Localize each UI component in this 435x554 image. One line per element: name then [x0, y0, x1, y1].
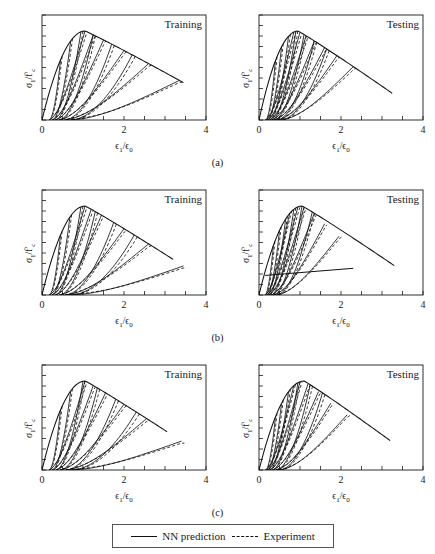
- experiment-loop: [61, 389, 127, 469]
- experiment-loop: [273, 382, 321, 470]
- curve-group: [42, 381, 184, 470]
- experiment-loop: [269, 208, 306, 294]
- experiment-loop: [275, 36, 327, 120]
- x-tick-label: 2: [331, 299, 351, 310]
- experiment-loop: [73, 414, 185, 470]
- x-axis-label: ϵ1/ϵ0: [259, 141, 423, 154]
- nn-prediction-loop: [267, 32, 300, 120]
- x-tick-label: 0: [249, 124, 269, 135]
- x-axis-label: ϵ1/ϵ0: [259, 491, 423, 504]
- x-axis-label: ϵ1/ϵ0: [259, 316, 423, 329]
- y-axis-label: σ1/f'c: [24, 418, 37, 437]
- x-tick-label: 2: [331, 124, 351, 135]
- row-label-b: (b): [0, 332, 435, 343]
- legend: NN prediction Experiment: [112, 524, 334, 548]
- curve-group: [259, 381, 390, 470]
- nn-prediction-loop: [56, 381, 106, 469]
- experiment-loop: [50, 382, 87, 469]
- nn-prediction-loop: [270, 36, 307, 120]
- x-tick-label: 2: [114, 474, 134, 485]
- nn-prediction-residual-line: [265, 268, 353, 275]
- experiment-loop: [60, 213, 126, 295]
- nn-prediction-loop: [281, 49, 353, 120]
- experiment-loop: [72, 56, 183, 119]
- panel-a-training: Trainingσ1/f'cϵ1/ϵ0024: [0, 0, 218, 150]
- nn-prediction-loop: [59, 35, 124, 120]
- panel-title: Training: [165, 18, 203, 30]
- experiment-loop: [277, 386, 333, 469]
- plot-frame: [42, 365, 206, 470]
- plot-frame: [42, 15, 206, 120]
- nn-prediction-loop: [65, 44, 149, 120]
- experiment-loop: [53, 387, 96, 470]
- experiment-loop: [50, 32, 87, 119]
- panel-b-testing: Testingσ1/f'cϵ1/ϵ0024: [217, 175, 435, 325]
- nn-prediction-loop: [49, 31, 85, 120]
- plot-frame: [259, 190, 423, 295]
- nn-prediction-loop: [274, 35, 324, 120]
- legend-item-nn: NN prediction: [131, 530, 225, 542]
- experiment-loop: [268, 382, 302, 469]
- x-axis-label: ϵ1/ϵ0: [42, 491, 206, 504]
- panel-title: Training: [165, 368, 203, 380]
- curve-group: [259, 31, 392, 120]
- x-tick-label: 2: [331, 474, 351, 485]
- experiment-loop: [278, 42, 339, 119]
- nn-prediction-loop: [49, 381, 85, 470]
- nn-prediction-loop: [276, 385, 331, 470]
- experiment-loop: [267, 207, 300, 294]
- nn-prediction-loop: [71, 55, 180, 120]
- experiment-loop: [57, 381, 108, 470]
- nn-prediction-loop: [272, 383, 318, 470]
- x-tick-label: 0: [32, 124, 52, 135]
- x-tick-label: 0: [32, 474, 52, 485]
- nn-prediction-envelope: [259, 381, 390, 470]
- x-tick-label: 4: [413, 124, 433, 135]
- x-tick-label: 4: [196, 124, 216, 135]
- curve-group: [42, 31, 183, 120]
- experiment-loop: [274, 207, 327, 295]
- legend-label-experiment: Experiment: [263, 530, 314, 542]
- nn-prediction-loop: [267, 207, 298, 295]
- nn-prediction-loop: [265, 213, 290, 294]
- x-tick-label: 4: [196, 474, 216, 485]
- y-axis-label: σ1/f'c: [24, 243, 37, 262]
- nn-prediction-loop: [274, 206, 325, 295]
- panel-title: Training: [165, 193, 203, 205]
- experiment-loop: [277, 213, 341, 294]
- experiment-loop: [56, 31, 106, 119]
- nn-prediction-loop: [52, 35, 93, 120]
- y-axis-label: σ1/f'c: [241, 418, 254, 437]
- nn-prediction-envelope: [42, 381, 167, 470]
- x-tick-label: 0: [249, 299, 269, 310]
- nn-prediction-loop: [60, 212, 124, 295]
- x-axis-label: ϵ1/ϵ0: [42, 316, 206, 329]
- experiment-loop: [272, 208, 317, 295]
- panel-title: Testing: [387, 368, 419, 380]
- nn-prediction-loop: [266, 32, 294, 120]
- curve-group: [259, 206, 394, 295]
- legend-item-experiment: Experiment: [232, 530, 314, 542]
- x-tick-label: 0: [32, 299, 52, 310]
- nn-prediction-loop: [55, 32, 103, 120]
- figure-root: Trainingσ1/f'cϵ1/ϵ0024 Testingσ1/f'cϵ1/ϵ…: [0, 0, 435, 554]
- experiment-loop: [282, 51, 356, 120]
- curve-group: [42, 206, 187, 295]
- nn-prediction-loop: [55, 207, 101, 295]
- experiment-loop: [280, 395, 349, 470]
- nn-prediction-loop: [267, 382, 300, 470]
- dashed-line-icon: [232, 536, 258, 537]
- experiment-loop: [268, 33, 302, 119]
- nn-prediction-loop: [52, 209, 91, 294]
- experiment-loop: [270, 34, 308, 119]
- nn-prediction-loop: [272, 31, 315, 119]
- panel-c-training: Trainingσ1/f'cϵ1/ϵ0024: [0, 350, 218, 500]
- plot-frame: [259, 365, 423, 470]
- nn-prediction-loop: [266, 386, 294, 470]
- experiment-loop: [272, 31, 316, 120]
- nn-prediction-loop: [269, 207, 304, 295]
- nn-prediction-loop: [72, 412, 181, 470]
- experiment-loop: [66, 224, 151, 295]
- nn-prediction-envelope: [259, 206, 394, 295]
- nn-prediction-loop: [71, 235, 183, 295]
